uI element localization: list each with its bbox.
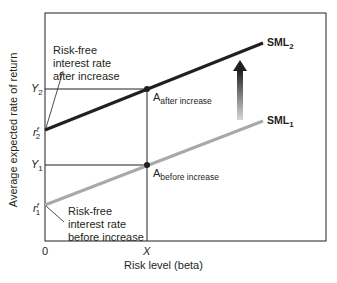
- x-tick-label: X: [143, 245, 150, 258]
- point-a-before-label: Abefore increase: [153, 167, 219, 184]
- sml1-line: [45, 121, 263, 205]
- y1-tick-label: Y1: [31, 158, 43, 175]
- point-a-after: [144, 86, 150, 92]
- rf1-tick-label: rf1: [33, 199, 40, 219]
- point-a-after-label: Aafter increase: [153, 91, 212, 108]
- note-rf-after: Risk-free interest rate after increase: [53, 44, 120, 83]
- sml1-label: SML1: [267, 114, 294, 131]
- origin-label: 0: [42, 245, 48, 258]
- leader-before: [46, 206, 64, 222]
- point-a-before: [144, 162, 150, 168]
- x-axis-label: Risk level (beta): [124, 259, 203, 272]
- note-rf-before: Risk-free interest rate before increase: [68, 205, 144, 244]
- y2-tick-label: Y2: [31, 82, 43, 99]
- y-axis-label: Average expected rate of return: [7, 53, 19, 208]
- rf2-tick-label: rf2: [33, 123, 40, 143]
- shift-arrow-icon: [233, 60, 247, 120]
- sml2-label: SML2: [267, 36, 294, 53]
